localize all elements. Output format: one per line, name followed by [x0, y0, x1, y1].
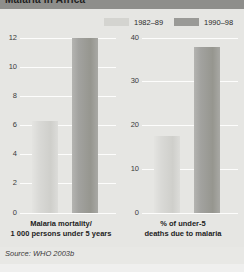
gridline: 30 — [142, 81, 238, 82]
axis-caption-left: Malaria mortality/ 1 000 persons under 5… — [0, 219, 122, 238]
legend-item-1982-89: 1982–89 — [104, 16, 163, 28]
y-tick-label: 30 — [131, 78, 139, 86]
gridline: 20 — [142, 125, 238, 126]
y-tick-label: 10 — [131, 165, 139, 173]
legend-label-1990-98: 1990–98 — [204, 18, 233, 27]
figure-surface: 1982–89 1990–98 024681012 Malaria mortal… — [0, 9, 244, 247]
bar-1990-98 — [194, 47, 220, 213]
axis-caption-left-line1: Malaria mortality/ — [0, 219, 122, 229]
axis-caption-right-line1: % of under-5 — [122, 219, 244, 229]
y-tick-label: 12 — [9, 34, 17, 42]
figure-source: Source: WHO 2003b — [5, 249, 74, 258]
y-tick-label: 2 — [13, 180, 17, 188]
legend: 1982–89 1990–98 — [0, 16, 244, 28]
gridline: 8 — [20, 96, 116, 97]
axis-caption-right-line2: deaths due to malaria — [122, 229, 244, 239]
bar-1990-98 — [72, 38, 98, 213]
plot-area-left: 024681012 — [20, 38, 116, 213]
y-tick-label: 20 — [131, 121, 139, 129]
figure-title: Malaria in Africa — [5, 0, 85, 5]
bar-1982-89 — [32, 121, 58, 213]
gridline: 12 — [20, 38, 116, 39]
y-tick-label: 8 — [13, 92, 17, 100]
bar-1982-89 — [154, 136, 180, 213]
axis-caption-right: % of under-5 deaths due to malaria — [122, 219, 244, 238]
y-tick-label: 4 — [13, 150, 17, 158]
plot-area-right: 010203040 — [142, 38, 238, 213]
legend-swatch-1990-98-icon — [174, 18, 199, 26]
y-tick-label: 40 — [131, 34, 139, 42]
y-tick-label: 0 — [13, 209, 17, 217]
legend-label-1982-89: 1982–89 — [134, 18, 163, 27]
gridline: 10 — [20, 67, 116, 68]
y-tick-label: 10 — [9, 63, 17, 71]
figure-container: Malaria in Africa 1982–89 1990–98 024681… — [0, 0, 244, 272]
legend-item-1990-98: 1990–98 — [174, 16, 233, 28]
axis-caption-left-line2: 1 000 persons under 5 years — [0, 229, 122, 239]
chart-panel-under5-deaths: 010203040 % of under-5 deaths due to mal… — [122, 29, 244, 247]
legend-swatch-1982-89-icon — [104, 18, 129, 26]
figure-title-bar: Malaria in Africa — [0, 0, 244, 9]
gridline: 40 — [142, 38, 238, 39]
y-tick-label: 0 — [135, 209, 139, 217]
figure-bottom-strip — [0, 264, 244, 272]
chart-panel-malaria-mortality: 024681012 Malaria mortality/ 1 000 perso… — [0, 29, 122, 247]
y-tick-label: 6 — [13, 121, 17, 129]
